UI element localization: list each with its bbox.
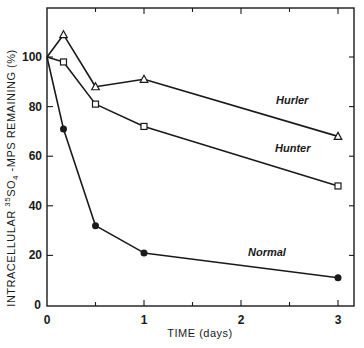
triangle-marker (60, 31, 68, 38)
circle-marker (141, 249, 148, 256)
square-marker (141, 123, 147, 129)
y-tick-label: 0 (34, 298, 41, 312)
y-axis-title: INTRACELLULAR 35SO4 -MPS REMAINING (%) (3, 49, 20, 306)
x-tick-label: 1 (141, 313, 148, 327)
series-line (47, 35, 338, 137)
y-axis-title-sup: 35 (3, 197, 12, 207)
y-tick-label: 60 (29, 149, 43, 163)
chart: 0123020406080100 HurlerHunterNormal TIME… (0, 0, 364, 348)
circle-marker (335, 274, 342, 281)
y-tick-label: 80 (29, 100, 43, 114)
x-tick-label: 0 (44, 313, 51, 327)
y-axis-title-pre: INTRACELLULAR (5, 207, 17, 307)
x-tick-label: 3 (335, 313, 342, 327)
y-tick-label: 20 (29, 248, 43, 262)
series-hunter: Hunter (47, 57, 341, 189)
series-hurler: Hurler (47, 31, 342, 140)
series-normal: Normal (47, 57, 342, 281)
series-group: HurlerHunterNormal (47, 31, 342, 282)
y-axis-title-post: -MPS REMAINING (%) (5, 49, 17, 175)
square-marker (60, 59, 66, 65)
triangle-marker (140, 75, 148, 82)
plot-border (47, 8, 354, 306)
series-label-hunter: Hunter (275, 142, 311, 154)
series-label-normal: Normal (248, 246, 287, 258)
x-axis-title: TIME (days) (167, 327, 232, 339)
y-tick-label: 100 (22, 50, 42, 64)
square-marker (93, 101, 99, 107)
series-label-hurler: Hurler (276, 94, 309, 106)
square-marker (335, 183, 341, 189)
y-axis-title-mid: SO (5, 180, 17, 197)
series-line (47, 57, 338, 278)
plot-frame (47, 8, 354, 306)
circle-marker (60, 125, 67, 132)
axis-ticks: 0123020406080100 (22, 8, 354, 327)
x-tick-label: 2 (238, 313, 245, 327)
circle-marker (92, 222, 99, 229)
y-tick-label: 40 (29, 199, 43, 213)
series-line (47, 57, 338, 186)
